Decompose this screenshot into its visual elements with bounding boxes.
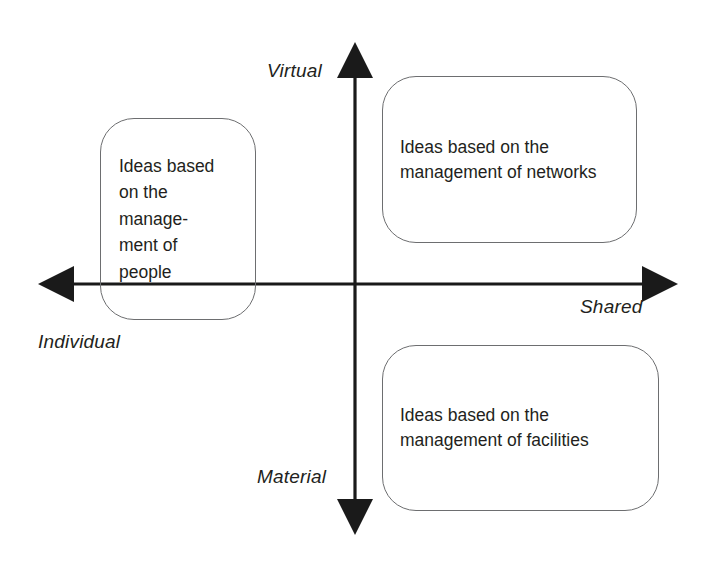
arrowhead-right-icon [642,266,678,302]
quadrant-box-people: Ideas based on the manage- ment of peopl… [100,118,256,320]
axis-label-shared: Shared [580,296,642,318]
quadrant-box-facilities: Ideas based on the management of facilit… [382,345,659,511]
axis-label-material: Material [257,466,326,488]
arrowhead-up-icon [337,42,373,78]
quadrant-box-networks-text: Ideas based on the management of network… [383,135,597,185]
arrowhead-down-icon [337,499,373,535]
quadrant-box-networks: Ideas based on the management of network… [382,76,637,243]
quadrant-diagram: Virtual Individual Shared Material Ideas… [0,0,712,568]
quadrant-box-people-text: Ideas based on the manage- ment of peopl… [101,153,214,286]
quadrant-box-facilities-text: Ideas based on the management of facilit… [383,403,589,453]
arrowhead-left-icon [38,266,74,302]
axis-label-virtual: Virtual [267,60,322,82]
axis-label-individual: Individual [38,331,120,353]
